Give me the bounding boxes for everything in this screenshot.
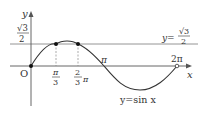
ytick-den: 2 xyxy=(19,34,24,44)
x-axis-label: x xyxy=(187,69,193,80)
xtick-pi-over-3-num: π xyxy=(52,68,59,77)
point-pi-over-3 xyxy=(54,42,58,46)
y-axis-label: y xyxy=(21,8,28,19)
xtick-2pi-over-3-num: 2 xyxy=(75,68,80,77)
x-axis-arrow-icon xyxy=(186,64,192,69)
ytick-num: √3 xyxy=(17,23,28,33)
xtick-2pi: 2π xyxy=(171,54,183,64)
origin-point xyxy=(29,64,33,68)
origin-label: O xyxy=(20,68,28,79)
xtick-2pi-over-3-pi: π xyxy=(82,75,89,84)
xtick-pi-over-3-den: 3 xyxy=(53,78,58,87)
line-label-num: √3 xyxy=(179,27,189,36)
sine-graph: y x O √3 2 π 3 2 3 π π 2π y= √3 2 y=sin … xyxy=(0,0,200,114)
curve-label: y=sin x xyxy=(119,94,156,105)
y-axis-arrow-icon xyxy=(29,11,34,17)
xtick-pi: π xyxy=(100,55,108,65)
line-label-den: 2 xyxy=(181,37,186,46)
line-label-lhs: y= xyxy=(161,33,175,43)
point-2pi xyxy=(175,64,179,68)
point-2pi-over-3 xyxy=(76,42,80,46)
xtick-2pi-over-3-den: 3 xyxy=(75,78,80,87)
